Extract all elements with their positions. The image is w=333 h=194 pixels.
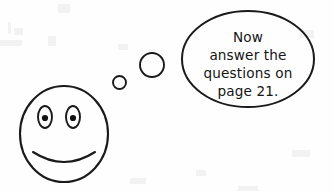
thought-bubble: Now answer the questions on page 21. xyxy=(182,11,314,107)
smile-mouth xyxy=(33,152,95,162)
left-eye-pupil xyxy=(42,115,48,121)
smiley-thought-illustration: Now answer the questions on page 21. xyxy=(0,0,333,194)
right-eye xyxy=(66,106,80,128)
thought-trail-medium xyxy=(140,53,164,77)
left-eye xyxy=(38,106,52,128)
thought-bubble-line-4: page 21. xyxy=(217,83,278,99)
thought-bubble-line-2: answer the xyxy=(209,47,286,63)
thought-bubble-line-3: questions on xyxy=(204,65,293,81)
thought-trail-small xyxy=(113,76,126,89)
thought-bubble-line-1: Now xyxy=(233,29,263,45)
right-eye-pupil xyxy=(70,115,76,121)
smiley-face-group xyxy=(20,86,108,182)
face-outline xyxy=(20,86,108,182)
illustration-canvas: Now answer the questions on page 21. xyxy=(0,0,333,194)
